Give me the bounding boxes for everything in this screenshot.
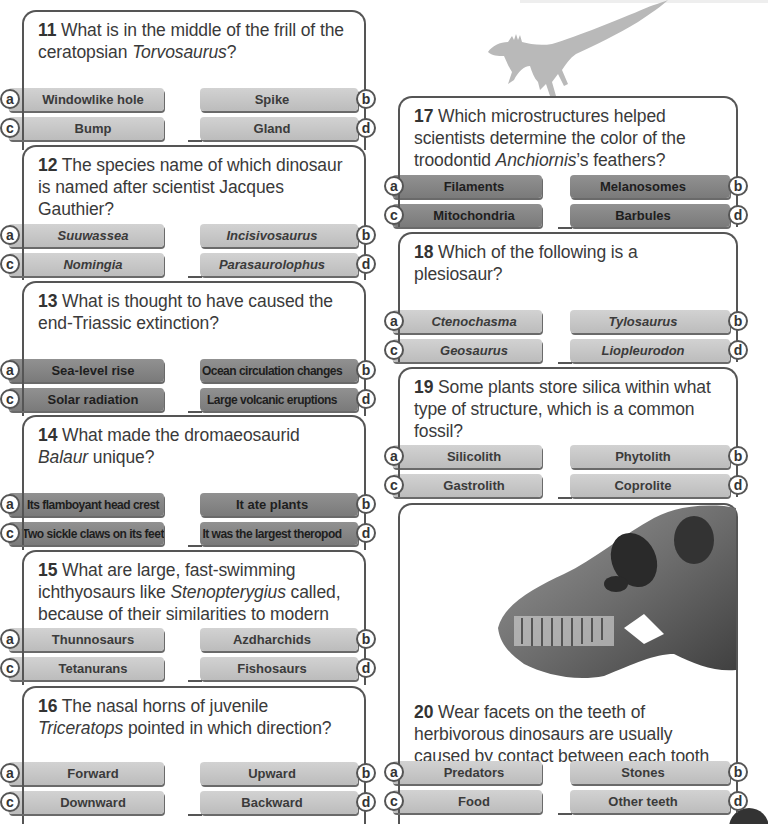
middle-connector: [558, 223, 572, 229]
option-letter-c-icon: c: [0, 523, 20, 543]
middle-connector: [188, 407, 202, 413]
option-letter-c-icon: c: [0, 389, 20, 409]
answer-option-d[interactable]: Coprolite: [570, 474, 730, 497]
answer-option-b[interactable]: Ocean circulation changes: [200, 359, 358, 382]
question-text-part: unique?: [88, 447, 154, 467]
middle-connector: [188, 136, 202, 142]
option-letter-a-icon: a: [384, 311, 404, 331]
answer-option-a[interactable]: Windowlike hole: [8, 88, 164, 111]
answer-group-11: Windowlike holeaSpikebBumpcGlandd: [0, 86, 384, 140]
answer-option-d[interactable]: It was the largest theropod: [200, 522, 358, 545]
answer-option-d[interactable]: Fishosaurs: [200, 657, 358, 680]
answer-option-a[interactable]: Its flamboyant head crest: [8, 493, 164, 516]
question-number: 11: [38, 20, 56, 40]
answer-option-b[interactable]: Phytolith: [570, 445, 730, 468]
option-letter-b-icon: b: [356, 629, 376, 649]
connector-line: [22, 626, 24, 680]
option-letter-d-icon: d: [356, 658, 376, 678]
connector-line: [22, 491, 24, 545]
option-letter-a-icon: a: [384, 176, 404, 196]
option-letter-c-icon: c: [384, 791, 404, 811]
answer-group-20: PredatorsaStonesbFoodcOther teethd: [384, 759, 768, 813]
answer-option-a[interactable]: Predators: [392, 761, 542, 784]
option-letter-c-icon: c: [0, 254, 20, 274]
answer-option-b[interactable]: Upward: [200, 762, 358, 785]
answer-option-a[interactable]: Filaments: [392, 175, 542, 198]
answer-group-17: FilamentsaMelanosomesbMitochondriacBarbu…: [384, 173, 768, 227]
question-text: 12 The species name of which dinosaur is…: [38, 154, 354, 220]
option-letter-c-icon: c: [0, 792, 20, 812]
answer-option-b[interactable]: Tylosaurus: [570, 310, 730, 333]
question-text-part: Which of the following is a plesiosaur?: [414, 242, 638, 284]
option-letter-d-icon: d: [728, 340, 748, 360]
answer-option-c[interactable]: Nomingia: [8, 253, 164, 276]
answer-option-c[interactable]: Food: [392, 790, 542, 813]
question-text-part: ’s feathers?: [576, 150, 665, 170]
option-letter-d-icon: d: [356, 389, 376, 409]
question-text-part: The species name of which dinosaur is na…: [38, 155, 342, 219]
middle-connector: [188, 272, 202, 278]
connector-line: [22, 760, 24, 814]
option-letter-a-icon: a: [0, 763, 20, 783]
answer-group-16: ForwardaUpwardbDownwardcBackwardd: [0, 760, 384, 814]
option-letter-a-icon: a: [0, 360, 20, 380]
question-italic-term: Anchiornis: [496, 150, 577, 170]
question-text-part: The nasal horns of juvenile: [57, 696, 268, 716]
answer-option-c[interactable]: Mitochondria: [392, 204, 542, 227]
answer-option-a[interactable]: Forward: [8, 762, 164, 785]
answer-option-d[interactable]: Liopleurodon: [570, 339, 730, 362]
connector-line: [22, 357, 24, 411]
question-text: 14 What made the dromaeosaurid Balaur un…: [38, 424, 354, 468]
answer-group-14: Its flamboyant head crestaIt ate plantsb…: [0, 491, 384, 545]
answer-option-c[interactable]: Solar radiation: [8, 388, 164, 411]
question-text: 16 The nasal horns of juvenile Tricerato…: [38, 695, 354, 739]
question-text: 19 Some plants store silica within what …: [414, 376, 726, 442]
answer-option-a[interactable]: Thunnosaurs: [8, 628, 164, 651]
option-letter-b-icon: b: [356, 225, 376, 245]
answer-option-b[interactable]: It ate plants: [200, 493, 358, 516]
answer-option-d[interactable]: Backward: [200, 791, 358, 814]
question-italic-term: Triceratops: [38, 718, 123, 738]
answer-option-d[interactable]: Gland: [200, 117, 358, 140]
answer-option-c[interactable]: Bump: [8, 117, 164, 140]
question-text-part: ?: [227, 42, 237, 62]
option-letter-d-icon: d: [356, 523, 376, 543]
option-letter-b-icon: b: [728, 762, 748, 782]
answer-option-a[interactable]: Ctenochasma: [392, 310, 542, 333]
answer-option-d[interactable]: Large volcanic eruptions: [200, 388, 358, 411]
answer-option-d[interactable]: Barbules: [570, 204, 730, 227]
answer-option-b[interactable]: Melanosomes: [570, 175, 730, 198]
answer-option-a[interactable]: Silicolith: [392, 445, 542, 468]
answer-option-c[interactable]: Tetanurans: [8, 657, 164, 680]
answer-option-d[interactable]: Parasaurolophus: [200, 253, 358, 276]
question-text: 13 What is thought to have caused the en…: [38, 290, 354, 334]
question-italic-term: Torvosaurus: [132, 42, 227, 62]
option-letter-c-icon: c: [384, 340, 404, 360]
answer-option-c[interactable]: Geosaurus: [392, 339, 542, 362]
answer-option-a[interactable]: Sea-level rise: [8, 359, 164, 382]
question-text-part: pointed in which direction?: [123, 718, 331, 738]
option-letter-b-icon: b: [356, 89, 376, 109]
answer-option-b[interactable]: Spike: [200, 88, 358, 111]
answer-option-c[interactable]: Two sickle claws on its feet: [8, 522, 164, 545]
option-letter-b-icon: b: [356, 763, 376, 783]
answer-option-a[interactable]: Suuwassea: [8, 224, 164, 247]
option-letter-b-icon: b: [728, 176, 748, 196]
question-text: 18 Which of the following is a plesiosau…: [414, 241, 726, 285]
answer-option-b[interactable]: Azdharchids: [200, 628, 358, 651]
question-text-part: Some plants store silica within what typ…: [414, 377, 711, 441]
middle-connector: [558, 493, 572, 499]
answer-option-b[interactable]: Stones: [570, 761, 730, 784]
answer-option-c[interactable]: Gastrolith: [392, 474, 542, 497]
option-letter-d-icon: d: [356, 254, 376, 274]
answer-option-c[interactable]: Downward: [8, 791, 164, 814]
question-text: 17 Which microstructures helped scientis…: [414, 105, 726, 171]
answer-option-d[interactable]: Other teeth: [570, 790, 730, 813]
answer-group-19: SilicolithaPhytolithbGastrolithcCoprolit…: [384, 443, 768, 497]
option-letter-a-icon: a: [0, 629, 20, 649]
answer-group-18: CtenochasmaaTylosaurusbGeosauruscLiopleu…: [384, 308, 768, 362]
question-number: 13: [38, 291, 57, 311]
middle-connector: [188, 676, 202, 682]
option-letter-d-icon: d: [356, 118, 376, 138]
answer-option-b[interactable]: Incisivosaurus: [200, 224, 358, 247]
